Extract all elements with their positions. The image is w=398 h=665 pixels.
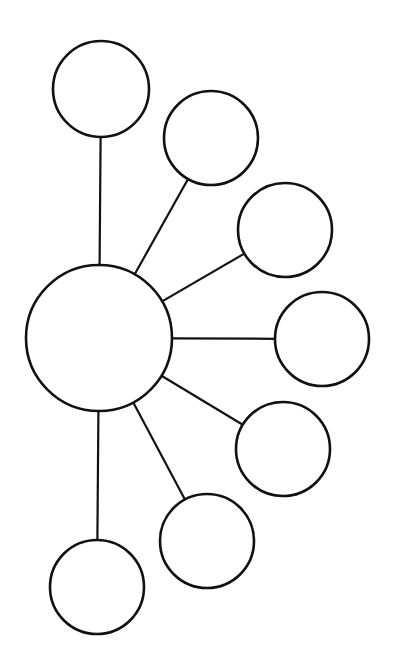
outer-bubble-3 bbox=[238, 183, 332, 277]
outer-bubble-4 bbox=[275, 292, 369, 386]
outer-circle bbox=[164, 91, 258, 185]
outer-bubble-5 bbox=[236, 402, 330, 496]
outer-bubble-2 bbox=[164, 91, 258, 185]
outer-bubble-6 bbox=[160, 494, 254, 588]
connector-line-3 bbox=[162, 254, 244, 302]
connector-line-1 bbox=[100, 137, 101, 265]
outer-circle bbox=[275, 292, 369, 386]
outer-circle bbox=[236, 402, 330, 496]
outer-circle bbox=[50, 540, 144, 634]
connector-line-2 bbox=[135, 179, 188, 274]
outer-bubble-7 bbox=[50, 540, 144, 634]
center-circle bbox=[26, 265, 172, 411]
outer-circle bbox=[160, 494, 254, 588]
bubble-map-diagram bbox=[0, 0, 398, 665]
center-bubble bbox=[26, 265, 172, 411]
outer-circle bbox=[53, 41, 149, 137]
outer-circle bbox=[238, 183, 332, 277]
connector-line-6 bbox=[133, 402, 185, 499]
connector-line-7 bbox=[97, 411, 98, 540]
connector-line-5 bbox=[162, 376, 243, 425]
outer-bubble-1 bbox=[53, 41, 149, 137]
